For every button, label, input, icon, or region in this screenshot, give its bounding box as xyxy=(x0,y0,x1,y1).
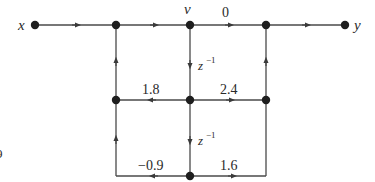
cropped-fragment: 9 xyxy=(0,146,3,161)
gain-top: 0 xyxy=(222,5,229,20)
state-label: v xyxy=(184,1,191,17)
gain-bottom-left: −0.9 xyxy=(138,158,163,173)
gain-bottom-right: 1.6 xyxy=(220,158,238,173)
gain-mid-right: 2.4 xyxy=(220,82,238,97)
output-label: y xyxy=(352,17,361,33)
node xyxy=(186,96,194,104)
node xyxy=(112,96,120,104)
node-input xyxy=(31,21,39,29)
input-label: x xyxy=(17,17,25,33)
delay-lower: z xyxy=(197,133,203,148)
node-v xyxy=(186,21,194,29)
node xyxy=(262,21,270,29)
node xyxy=(112,21,120,29)
delay-lower-exponent: −1 xyxy=(206,130,216,140)
delay-upper-exponent: −1 xyxy=(206,55,216,65)
node xyxy=(186,172,194,180)
gain-mid-left: 1.8 xyxy=(142,82,160,97)
signal-flow-graph: x y v 0 z −1 z −1 1.8 2.4 −0.9 1.6 9 xyxy=(0,0,375,182)
delay-upper: z xyxy=(197,58,203,73)
node-output xyxy=(341,21,349,29)
node xyxy=(262,96,270,104)
